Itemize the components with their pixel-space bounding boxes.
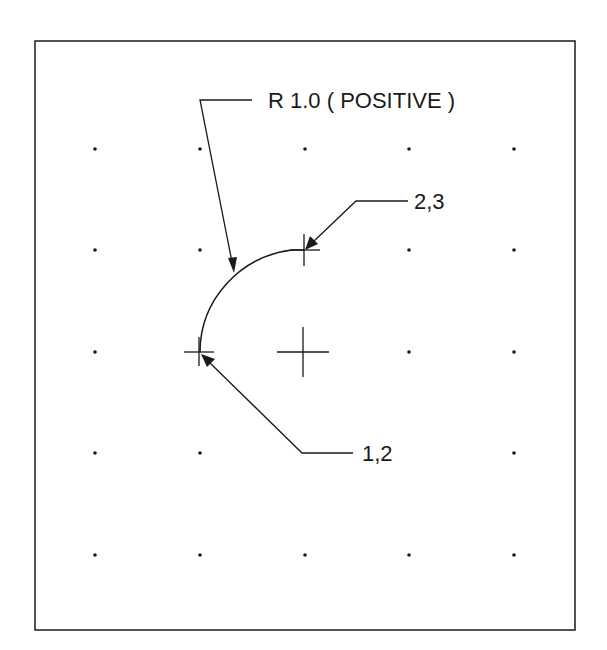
positive-arc [200,250,304,352]
start-point-leader [201,354,353,453]
center-point-marker-icon [277,327,329,377]
radius-leader [200,100,252,273]
start-point-label: 1,2 [362,441,393,466]
end-point-label: 2,3 [414,189,445,214]
arrowhead-icon [228,257,237,273]
arrowhead-icon [305,236,318,250]
end-point-leader [305,201,408,250]
drawing-frame [35,41,575,630]
radius-label: R 1.0 ( POSITIVE ) [268,88,455,113]
arc-diagram: R 1.0 ( POSITIVE ) 2,3 1,2 [0,0,607,650]
